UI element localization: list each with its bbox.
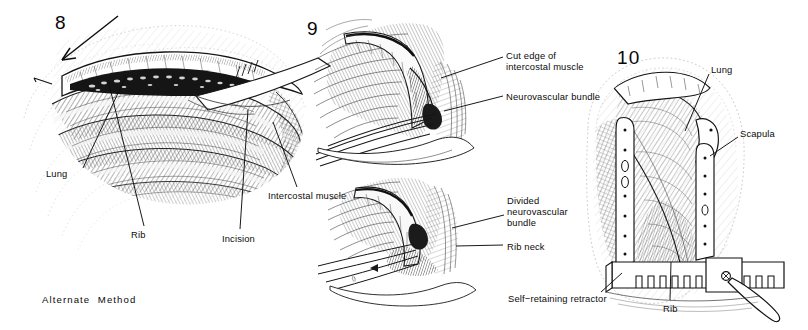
panel-number-8: 8 bbox=[55, 12, 67, 34]
panel-8-caption: Alternate Method bbox=[42, 294, 136, 305]
panel-9-lower-leader-lines bbox=[452, 215, 504, 246]
panel-10-artwork bbox=[587, 58, 784, 322]
illustration-plate: ⟨⟩ bbox=[0, 0, 808, 330]
label-neurovascular-bundle: Neurovascular bundle bbox=[506, 91, 600, 102]
label-rib-neck: Rib neck bbox=[507, 241, 545, 252]
label-lung-panel-10: Lung bbox=[711, 64, 732, 75]
label-incision-panel-8: Incision bbox=[222, 233, 255, 244]
panel-8-skin-hook bbox=[34, 78, 52, 84]
label-rib-panel-8: Rib bbox=[131, 229, 146, 240]
panel-10-retractor-right-blade bbox=[696, 144, 714, 261]
label-cut-edge-of-intercostal-muscle: Cut edge of intercostal muscle bbox=[506, 50, 584, 72]
label-scapula: Scapula bbox=[740, 128, 775, 139]
panel-number-9: 9 bbox=[307, 18, 319, 40]
plate-artwork: ⟨⟩ bbox=[0, 0, 808, 330]
panel-10-retractor-left-blade bbox=[616, 118, 634, 267]
label-lung-panel-8: Lung bbox=[46, 168, 67, 179]
label-intercostal-muscle-panel-8: Intercostal muscle bbox=[268, 190, 346, 201]
panel-9-upper-artwork bbox=[314, 19, 503, 166]
label-rib-panel-10: Rib bbox=[663, 303, 678, 314]
panel-number-10: 10 bbox=[617, 47, 641, 69]
label-self-retaining-retractor: Self−retaining retractor bbox=[508, 293, 607, 304]
label-divided-neurovascular-bundle: Divided neurovascular bundle bbox=[507, 195, 568, 229]
panel-8-artwork bbox=[24, 16, 330, 250]
svg-text:⟨⟩: ⟨⟩ bbox=[351, 275, 356, 282]
